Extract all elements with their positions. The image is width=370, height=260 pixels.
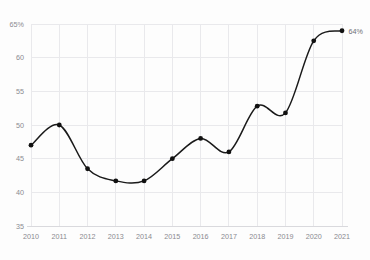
y-tick-label: 50 [16,121,24,130]
x-tick-label: 2018 [249,232,265,241]
gridlines-horizontal [31,24,342,226]
data-point-marker [170,156,175,161]
data-point-marker [85,166,90,171]
x-tick-label: 2020 [306,232,322,241]
x-tick-label: 2011 [52,232,67,241]
y-tick-label: 65% [10,20,25,29]
x-tick-label: 2014 [136,232,152,241]
x-tick-label: 2016 [193,232,209,241]
data-point-marker [57,123,62,128]
series-path-group [31,31,342,183]
chart-canvas: 35404550556065% 201020112012201320142015… [0,0,370,260]
data-point-marker [113,178,118,183]
line-chart: 35404550556065% 201020112012201320142015… [0,0,370,260]
data-point-marker [142,178,147,183]
x-tick-label: 2013 [108,232,124,241]
data-point-marker [198,136,203,141]
y-tick-label: 45 [16,154,24,163]
y-tick-label: 60 [16,53,24,62]
data-point-marker [227,150,232,155]
y-tick-label: 40 [16,188,24,197]
y-axis-tick-labels: 35404550556065% [10,20,25,231]
x-tick-label: 2017 [221,232,237,241]
x-tick-label: 2021 [334,232,350,241]
y-tick-label: 35 [16,222,24,231]
data-point-marker [283,110,288,115]
series-line [31,31,342,183]
point-annotations: 64% [349,27,364,36]
data-point-marker [340,28,345,33]
data-point-marker [311,38,316,43]
data-point-marker [29,143,34,148]
point-value-label: 64% [349,27,364,36]
y-tick-label: 55 [16,87,24,96]
x-tick-label: 2010 [23,232,39,241]
data-point-markers [29,28,345,183]
x-tick-label: 2015 [164,232,180,241]
x-axis-tick-labels: 2010201120122013201420152016201720182019… [23,232,350,241]
x-tick-label: 2019 [277,232,293,241]
x-tick-label: 2012 [80,232,96,241]
data-point-marker [255,104,260,109]
